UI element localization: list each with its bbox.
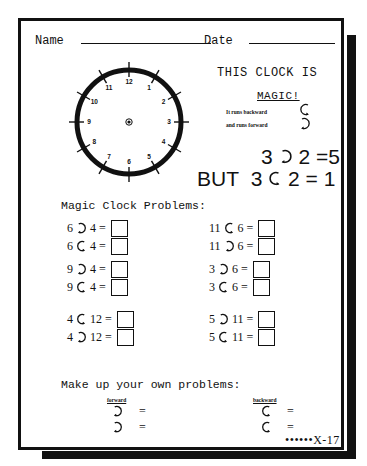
result: 5: [328, 145, 340, 168]
problem-row: 511=: [209, 329, 275, 346]
page-number: ••••••X-17: [285, 433, 340, 448]
clockwise-arrow-icon: [76, 331, 87, 344]
counterclockwise-arrow-icon: [261, 405, 272, 418]
operand-a: 6: [67, 221, 73, 236]
svg-text:11: 11: [106, 84, 113, 91]
operand-b: 6: [238, 221, 244, 236]
prefix: BUT: [197, 167, 239, 190]
svg-text:3: 3: [167, 118, 171, 125]
equals: =: [99, 221, 106, 236]
equals: =: [306, 167, 318, 190]
equals: =: [105, 330, 112, 345]
svg-text:2: 2: [162, 98, 166, 105]
clockwise-arrow-icon: [218, 313, 229, 326]
note-forward: and runs forward: [226, 122, 268, 128]
equals: =: [247, 330, 254, 345]
operand-a: 11: [209, 221, 221, 236]
equals: =: [247, 221, 254, 236]
operand-b: 4: [90, 262, 96, 277]
example-backward: BUT 3 2 = 1: [197, 167, 335, 191]
answer-box[interactable]: [258, 220, 275, 237]
operand-a: 11: [209, 239, 221, 254]
answer-box[interactable]: [258, 329, 275, 346]
equals: =: [316, 145, 328, 168]
equals: =: [247, 239, 254, 254]
svg-text:6: 6: [127, 158, 131, 165]
clockwise-arrow-icon: [112, 421, 123, 434]
name-field[interactable]: [81, 43, 211, 44]
svg-text:12: 12: [125, 78, 133, 85]
answer-box[interactable]: [111, 261, 128, 278]
operand-b: 12: [90, 330, 102, 345]
name-label: Name: [35, 34, 64, 48]
worksheet-frame: Name Date 121234567891011 THIS CLOCK IS …: [18, 18, 344, 450]
operand-b: 12: [90, 312, 102, 327]
operand-b: 4: [90, 221, 96, 236]
svg-text:4: 4: [162, 138, 166, 145]
svg-text:8: 8: [93, 138, 97, 145]
operand-b: 11: [232, 312, 244, 327]
clockwise-arrow-icon: [299, 117, 311, 131]
equals: =: [247, 312, 254, 327]
operand-a: 9: [67, 262, 73, 277]
counterclockwise-arrow-icon: [76, 240, 87, 253]
operand: 2: [298, 145, 310, 168]
svg-text:5: 5: [147, 153, 151, 160]
answer-box[interactable]: [111, 220, 128, 237]
answer-box[interactable]: [117, 329, 134, 346]
equals: =: [287, 404, 294, 419]
result: 1: [324, 167, 336, 190]
backward-label: backward: [253, 397, 277, 403]
operand-a: 9: [67, 280, 73, 295]
answer-box[interactable]: [258, 238, 275, 255]
problem-row: 64=: [67, 238, 128, 255]
intro-line-1: THIS CLOCK IS: [217, 66, 317, 80]
problem-row: 412=: [67, 329, 134, 346]
operand-b: 6: [232, 262, 238, 277]
date-field[interactable]: [249, 43, 335, 44]
clockwise-arrow-icon: [112, 405, 123, 418]
answer-box[interactable]: [253, 279, 270, 296]
problem-row: 116=: [209, 238, 275, 255]
operand-a: 5: [209, 330, 215, 345]
answer-box[interactable]: [111, 279, 128, 296]
operand-b: 4: [90, 239, 96, 254]
operand-b: 6: [232, 280, 238, 295]
equals: =: [241, 262, 248, 277]
problems-title: Magic Clock Problems:: [61, 199, 206, 212]
answer-box[interactable]: [117, 311, 134, 328]
problem-row: 94=: [67, 279, 128, 296]
operand-b: 6: [238, 239, 244, 254]
operand-a: 3: [209, 262, 215, 277]
intro-line-2: MAGIC!: [257, 90, 300, 102]
operand-b: 4: [90, 280, 96, 295]
make-own-row[interactable]: [261, 421, 272, 439]
svg-text:9: 9: [87, 118, 91, 125]
operand-a: 4: [67, 312, 73, 327]
problem-row: 412=: [67, 311, 134, 328]
equals: =: [139, 420, 146, 435]
svg-text:10: 10: [91, 98, 99, 105]
note-backward: It runs backward: [226, 109, 267, 115]
operand: 3: [261, 145, 273, 168]
counterclockwise-arrow-icon: [76, 281, 87, 294]
counterclockwise-arrow-icon: [299, 103, 311, 117]
answer-box[interactable]: [253, 261, 270, 278]
operand-a: 3: [209, 280, 215, 295]
clockwise-arrow-icon: [76, 222, 87, 235]
problem-row: 36=: [209, 261, 270, 278]
answer-box[interactable]: [111, 238, 128, 255]
counterclockwise-arrow-icon: [76, 313, 87, 326]
equals: =: [99, 262, 106, 277]
clock-face: 121234567891011: [69, 62, 189, 182]
forward-label: forward: [107, 397, 126, 403]
counterclockwise-arrow-icon: [218, 281, 229, 294]
date-label: Date: [204, 34, 233, 48]
counterclockwise-arrow-icon: [261, 421, 272, 434]
frame-shadow-bottom: [42, 451, 356, 459]
make-own-row[interactable]: [112, 421, 123, 439]
clockwise-arrow-icon: [224, 240, 235, 253]
operand-a: 5: [209, 312, 215, 327]
problem-row: 94=: [67, 261, 128, 278]
answer-box[interactable]: [258, 311, 275, 328]
